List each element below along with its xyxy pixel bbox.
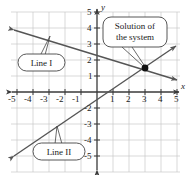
y-tick-label-4: 4 — [87, 24, 92, 33]
line-2-callout-label: Line II — [33, 147, 85, 157]
y-tick-label-3: 3 — [87, 40, 92, 49]
x-axis-label: x — [181, 82, 185, 91]
solution-callout-label-line2: the system — [103, 32, 167, 42]
solution-callout-label-line1: Solution of — [103, 21, 167, 31]
y-tick-label--3: -3 — [84, 120, 92, 129]
y-tick-label--2: -2 — [84, 104, 92, 113]
x-tick-label--5: -5 — [8, 95, 16, 104]
x-tick-label--2: -2 — [56, 95, 64, 104]
x-tick-label--1: -1 — [72, 95, 80, 104]
y-tick-label-1: 1 — [88, 72, 93, 81]
x-tick-label-2: 2 — [126, 95, 131, 104]
coordinate-plane-figure: -5 -4 -3 -2 -1 1 2 3 4 5 5 4 3 2 1 -2 -3… — [0, 0, 192, 175]
y-tick-label-5: 5 — [87, 8, 92, 17]
x-tick-label-3: 3 — [142, 95, 147, 104]
y-tick-label--4: -4 — [84, 136, 92, 145]
y-tick-label-2: 2 — [87, 56, 92, 65]
x-tick-label-1: 1 — [110, 95, 115, 104]
x-tick-label--3: -3 — [40, 95, 48, 104]
x-tick-label-5: 5 — [174, 95, 179, 104]
line-1-callout-label: Line I — [18, 58, 65, 68]
y-axis-label: y — [101, 3, 105, 12]
x-tick-label--4: -4 — [24, 95, 32, 104]
x-tick-label-4: 4 — [158, 95, 163, 104]
y-tick-label--5: -5 — [84, 152, 92, 161]
